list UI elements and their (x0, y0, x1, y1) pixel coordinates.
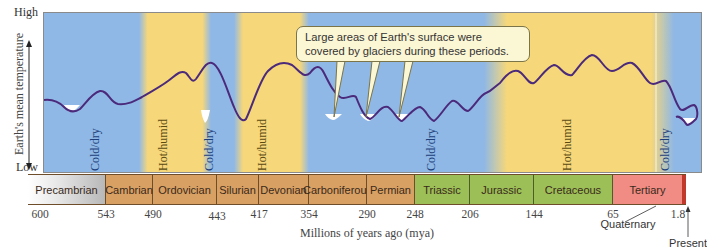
quaternary-label: Quaternary (600, 218, 655, 230)
present-label: Present (669, 237, 707, 249)
x-axis-title: Millions of years ago (mya) (300, 226, 434, 241)
